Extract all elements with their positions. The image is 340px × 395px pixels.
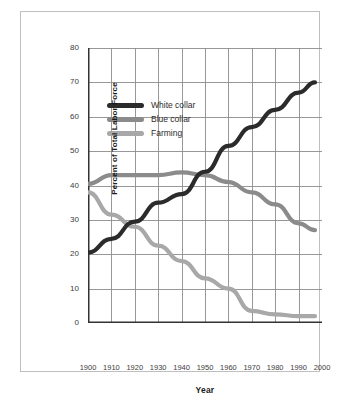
legend-item-blue-collar: Blue collar	[107, 112, 227, 126]
y-tick-label: 0	[55, 319, 79, 327]
x-tick-label: 1990	[286, 364, 312, 372]
x-tick-label: 1930	[145, 364, 171, 372]
x-tick-label: 1920	[122, 364, 148, 372]
x-tick-label: 1980	[262, 364, 288, 372]
horizontal-gridlines	[88, 49, 322, 324]
y-tick-label: 70	[55, 78, 79, 86]
y-tick-label: 50	[55, 147, 79, 155]
chart-canvas	[88, 48, 322, 323]
legend-item-white-collar: White collar	[107, 98, 227, 112]
legend-label-blue-collar: Blue collar	[151, 114, 191, 124]
x-axis-title: Year	[88, 385, 322, 395]
y-tick-label: 80	[55, 44, 79, 52]
vertical-gridlines	[89, 48, 323, 323]
x-tick-label: 1910	[98, 364, 124, 372]
x-tick-label: 2000	[309, 364, 335, 372]
y-tick-label: 60	[55, 113, 79, 121]
legend-label-farming: Farming	[151, 128, 182, 138]
y-axis-title: Percent of Total Labor Force	[110, 59, 119, 219]
y-tick-label: 10	[55, 285, 79, 293]
x-tick-label: 1900	[75, 364, 101, 372]
figure-frame: White collar Blue collar Farming 0102030…	[20, 11, 320, 372]
y-tick-label: 40	[55, 182, 79, 190]
x-tick-label: 1940	[169, 364, 195, 372]
chart-legend: White collar Blue collar Farming	[107, 98, 227, 140]
y-tick-label: 30	[55, 216, 79, 224]
x-tick-label: 1960	[215, 364, 241, 372]
plot-area: White collar Blue collar Farming 0102030…	[88, 48, 322, 323]
x-tick-label: 1950	[192, 364, 218, 372]
x-tick-label: 1970	[239, 364, 265, 372]
tick-marks	[88, 49, 322, 324]
y-tick-label: 20	[55, 250, 79, 258]
legend-item-farming: Farming	[107, 126, 227, 140]
legend-label-white-collar: White collar	[151, 100, 195, 110]
axis-spines	[88, 48, 322, 323]
